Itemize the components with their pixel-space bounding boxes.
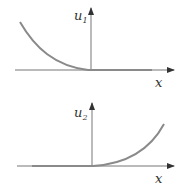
y-axis-label: u1 — [74, 8, 87, 25]
x-axis-label: x — [155, 171, 163, 186]
y-axis-label: u2 — [74, 105, 87, 122]
diagram-canvas: u1 x u2 x — [0, 0, 188, 193]
curve-u2 — [32, 124, 164, 166]
x-axis-label: x — [155, 75, 163, 90]
plot-u1: u1 x — [15, 8, 174, 90]
curve-u1 — [20, 22, 152, 70]
plot-u2: u2 x — [17, 103, 174, 186]
